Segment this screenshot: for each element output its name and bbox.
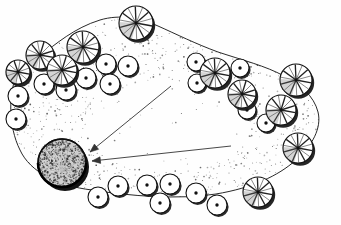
- landscape-plan-canvas: [0, 0, 341, 225]
- landscape-plan-drawing: [0, 0, 341, 225]
